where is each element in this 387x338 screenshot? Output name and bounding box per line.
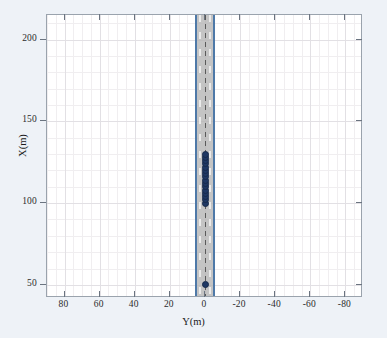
gridline-minor-vertical <box>310 15 311 296</box>
y-axis-tick-label: 50 <box>0 278 37 288</box>
x-axis-tick <box>309 14 310 20</box>
gridline-minor-vertical <box>337 15 338 296</box>
gridline-minor-vertical <box>266 15 267 296</box>
x-axis-tick <box>204 291 205 297</box>
road-edge-left <box>195 15 197 296</box>
road-edge-right <box>213 15 215 296</box>
gridline-minor-vertical <box>117 15 118 296</box>
x-axis-tick <box>134 14 135 20</box>
gridline-minor-vertical <box>240 15 241 296</box>
y-axis-tick <box>40 202 46 203</box>
gridline-minor-vertical <box>161 15 162 296</box>
gridline-minor-vertical <box>82 15 83 296</box>
x-axis-tick <box>204 14 205 20</box>
gridline-minor-vertical <box>319 15 320 296</box>
gridline-minor-vertical <box>354 15 355 296</box>
gridline-minor-vertical <box>231 15 232 296</box>
y-axis-tick <box>356 284 362 285</box>
x-axis-tick-label: -40 <box>254 299 294 309</box>
y-axis-tick <box>356 39 362 40</box>
gridline-minor-vertical <box>302 15 303 296</box>
gridline-minor-vertical <box>328 15 329 296</box>
y-axis-tick <box>40 120 46 121</box>
gridline-minor-vertical <box>100 15 101 296</box>
x-axis-tick <box>239 14 240 20</box>
gridline-major-vertical <box>240 15 241 296</box>
plot-area <box>46 14 362 297</box>
y-axis-tick-label: 200 <box>0 33 37 43</box>
x-axis-tick <box>99 14 100 20</box>
gridline-minor-vertical <box>126 15 127 296</box>
gridline-minor-vertical <box>187 15 188 296</box>
lane-marking-1 <box>199 15 201 296</box>
gridline-minor-vertical <box>258 15 259 296</box>
x-axis-tick-label: -20 <box>219 299 259 309</box>
y-axis-tick <box>40 284 46 285</box>
gridline-minor-vertical <box>56 15 57 296</box>
y-axis-tick <box>40 39 46 40</box>
gridline-minor-vertical <box>91 15 92 296</box>
y-axis-label: X(m) <box>17 116 28 176</box>
gridline-major-vertical <box>345 15 346 296</box>
x-axis-tick <box>344 14 345 20</box>
gridline-major-vertical <box>65 15 66 296</box>
x-axis-tick <box>169 291 170 297</box>
figure-canvas: 50100150200806040200-20-40-60-80 Y(m) X(… <box>0 0 387 338</box>
x-axis-tick-label: 0 <box>184 299 224 309</box>
gridline-minor-vertical <box>293 15 294 296</box>
x-axis-tick-label: 80 <box>44 299 84 309</box>
y-axis-tick-label: 100 <box>0 196 37 206</box>
x-axis-tick <box>239 291 240 297</box>
y-axis-tick <box>356 202 362 203</box>
gridline-minor-vertical <box>144 15 145 296</box>
gridline-minor-vertical <box>65 15 66 296</box>
gridline-minor-vertical <box>170 15 171 296</box>
x-axis-tick-label: 20 <box>149 299 189 309</box>
gridline-minor-vertical <box>223 15 224 296</box>
gridline-major-vertical <box>170 15 171 296</box>
gridline-minor-vertical <box>73 15 74 296</box>
gridline-minor-vertical <box>108 15 109 296</box>
x-axis-tick <box>274 291 275 297</box>
x-axis-tick-label: 40 <box>114 299 154 309</box>
data-point-marker <box>202 281 209 288</box>
x-axis-tick-label: 60 <box>79 299 119 309</box>
gridline-minor-vertical <box>47 15 48 296</box>
x-axis-tick-label: -80 <box>324 299 364 309</box>
gridline-major-vertical <box>275 15 276 296</box>
x-axis-label: Y(m) <box>0 316 387 327</box>
gridline-minor-vertical <box>249 15 250 296</box>
gridline-minor-vertical <box>284 15 285 296</box>
gridline-minor-vertical <box>345 15 346 296</box>
gridline-major-vertical <box>100 15 101 296</box>
gridline-minor-vertical <box>135 15 136 296</box>
data-point-marker <box>202 151 209 158</box>
lane-marking-0 <box>209 15 211 296</box>
x-axis-tick <box>64 14 65 20</box>
y-axis-tick <box>356 120 362 121</box>
gridline-minor-vertical <box>275 15 276 296</box>
gridline-minor-vertical <box>179 15 180 296</box>
x-axis-tick <box>344 291 345 297</box>
x-axis-tick <box>64 291 65 297</box>
gridline-major-vertical <box>135 15 136 296</box>
x-axis-tick <box>169 14 170 20</box>
x-axis-tick-label: -60 <box>289 299 329 309</box>
x-axis-tick <box>274 14 275 20</box>
x-axis-tick <box>309 291 310 297</box>
gridline-major-vertical <box>310 15 311 296</box>
gridline-minor-vertical <box>152 15 153 296</box>
x-axis-tick <box>134 291 135 297</box>
x-axis-tick <box>99 291 100 297</box>
